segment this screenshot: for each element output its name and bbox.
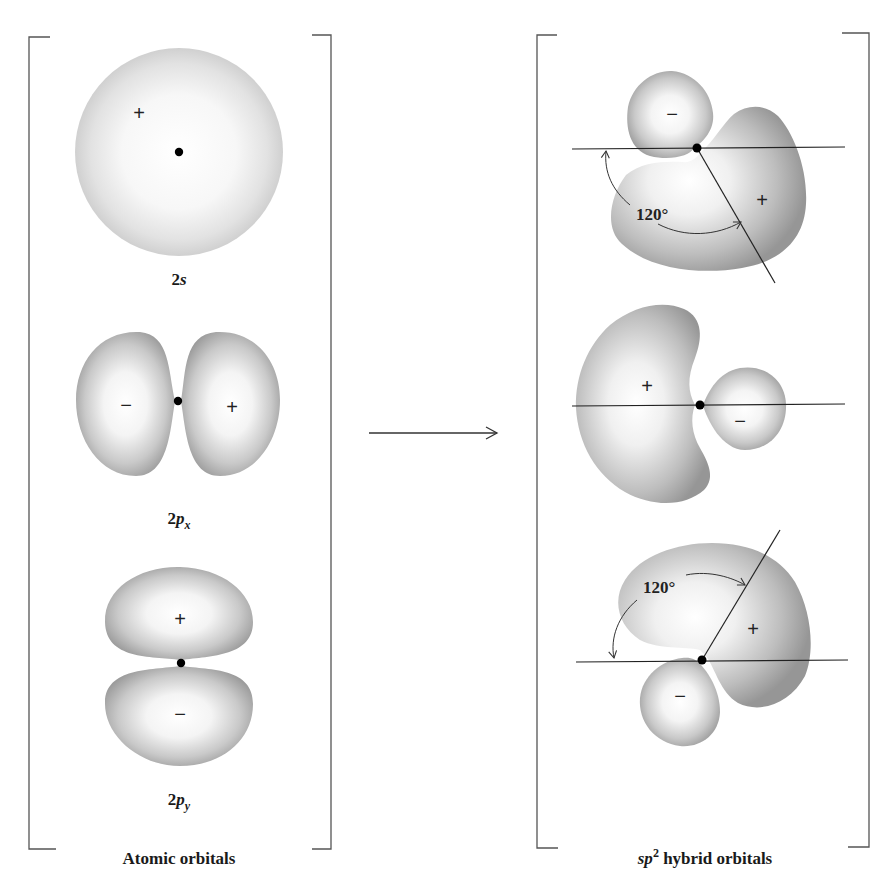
caption-sp2-hybrid-orbitals: sp2 hybrid orbitals (637, 846, 773, 868)
label-2py: 2py (168, 790, 191, 813)
minus-sign: − (174, 703, 186, 725)
angle-label: 120° (643, 578, 675, 597)
minus-sign: − (674, 685, 686, 707)
orbital-2s: + 2s (75, 48, 283, 289)
sp2-hybrid-3: 120° + − (576, 530, 848, 746)
label-2s: 2s (171, 270, 187, 289)
nucleus-dot (175, 148, 183, 156)
large-lobe (576, 305, 710, 503)
orbital-2px: − + 2px (76, 332, 280, 532)
nucleus-dot (696, 401, 705, 410)
label-2px: 2px (168, 509, 191, 532)
nucleus-dot (698, 656, 707, 665)
nucleus-dot (693, 144, 702, 153)
minus-sign: − (734, 410, 746, 432)
small-lobe (703, 367, 786, 450)
minus-sign: − (666, 103, 678, 125)
minus-sign: − (120, 394, 132, 416)
plus-sign: + (756, 189, 768, 211)
plus-sign: + (641, 375, 653, 397)
plus-sign: + (174, 608, 186, 630)
orbital-hybridization-diagram: + 2s − + 2px + − 2py 120° − + (0, 0, 895, 878)
plus-sign: + (133, 102, 145, 124)
orbital-2py: + − 2py (105, 567, 253, 813)
nucleus-dot (177, 659, 185, 667)
sp2-hybrid-2: + − (572, 305, 845, 503)
plus-sign: + (226, 396, 238, 418)
caption-atomic-orbitals: Atomic orbitals (123, 849, 236, 868)
plus-sign: + (747, 618, 759, 640)
angle-label: 120° (636, 205, 668, 224)
nucleus-dot (174, 397, 182, 405)
sp2-hybrid-1: 120° − + (572, 71, 845, 283)
